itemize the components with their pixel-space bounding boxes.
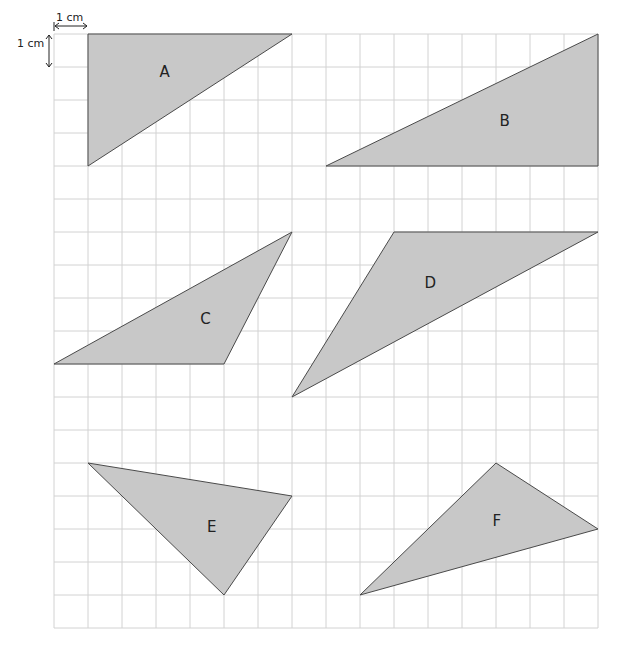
grid-diagram: ABCDEF 1 cm 1 cm: [0, 0, 620, 647]
horizontal-scale-label: 1 cm: [56, 11, 83, 24]
triangle-label: F: [493, 512, 502, 530]
triangle-label: C: [200, 310, 210, 328]
triangle-label: D: [425, 274, 437, 292]
triangle-shape: [292, 232, 598, 397]
triangle-label: E: [207, 518, 216, 536]
triangle-label: B: [499, 112, 509, 130]
scale-indicator: 1 cm 1 cm: [17, 11, 87, 67]
triangle-label: A: [159, 63, 170, 81]
vertical-scale-label: 1 cm: [17, 37, 44, 50]
triangle-d: D: [292, 232, 598, 397]
